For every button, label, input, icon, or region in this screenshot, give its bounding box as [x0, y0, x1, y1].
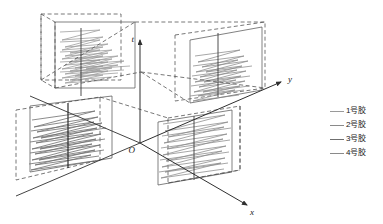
guide-line-lower-link [100, 97, 168, 118]
y-axis-label: y [287, 74, 292, 84]
legend-swatch-icon [330, 125, 344, 126]
legend: 1号胶 2号胶 3号胶 4号胶 [330, 104, 383, 160]
panel-lower-right-outline [168, 106, 240, 183]
figure-root: t y x O 1号胶 2号胶 3号胶 4号胶 [0, 0, 383, 224]
legend-item: 4号胶 [330, 146, 383, 160]
legend-item: 2号胶 [330, 118, 383, 132]
t-axis-label: t [131, 34, 134, 44]
x-axis [140, 143, 247, 205]
legend-item-label: 1号胶 [346, 106, 366, 116]
legend-item-label: 2号胶 [346, 120, 366, 130]
panel-lower-right-traces [159, 115, 231, 178]
legend-item: 3号胶 [330, 132, 383, 146]
legend-swatch-icon [330, 111, 344, 112]
axes-group [16, 40, 281, 205]
legend-swatch-icon [330, 153, 344, 154]
legend-item-label: 3号胶 [346, 134, 366, 144]
panel-upper-left-traces [60, 30, 130, 83]
origin-label: O [129, 145, 136, 155]
panel-lower-left [16, 96, 112, 180]
legend-item-label: 4号胶 [346, 148, 366, 158]
panel-upper-left-side [41, 14, 55, 88]
guide-line-diag-down [141, 72, 190, 103]
x-axis-label: x [249, 207, 254, 217]
legend-item: 1号胶 [330, 104, 383, 118]
coordinate-diagram: t y x O [0, 0, 383, 224]
panel-upper-left [41, 14, 135, 96]
panel-upper-right [175, 22, 265, 103]
legend-swatch-icon [330, 139, 344, 140]
panel-upper-right-outline [175, 22, 265, 101]
